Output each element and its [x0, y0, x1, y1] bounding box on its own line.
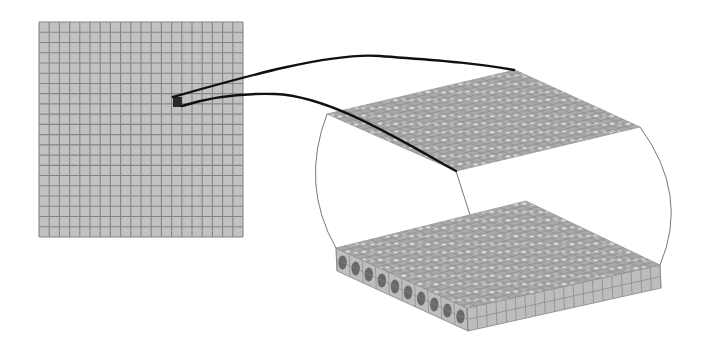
diagram-canvas	[0, 0, 709, 355]
mesh-zoom-diagram	[0, 0, 709, 355]
meshed-slab	[336, 201, 661, 331]
left-outline-curve	[315, 114, 336, 248]
right-outline-curve	[640, 127, 671, 265]
top-mesh-layer	[327, 70, 640, 171]
middle-outline-line	[456, 171, 470, 215]
highlighted-element	[173, 97, 182, 107]
planar-mesh	[39, 22, 243, 237]
